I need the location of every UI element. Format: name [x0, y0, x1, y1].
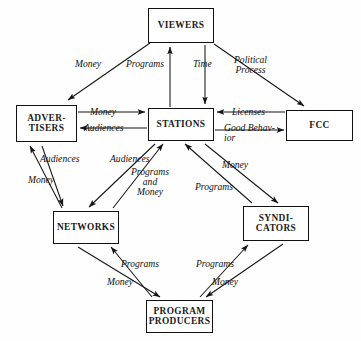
connector-lines-layer	[0, 0, 361, 341]
edge-label-programs-and-money: Programs and Money	[131, 167, 169, 196]
edge-networks-to-producers-money	[78, 247, 160, 297]
edge-label-programs-producers-networks: Programs	[121, 259, 159, 269]
node-program-producers-label-line1: PROGRAM	[149, 307, 211, 317]
node-fcc-label: FCC	[309, 121, 329, 131]
edge-label-licenses-fcc-stations: Licenses	[232, 107, 265, 117]
edge-producers-to-networks-programs	[111, 247, 152, 297]
edge-label-money-stations-syndicators: Money	[222, 160, 248, 170]
edge-label-programs-stations-viewers: Programs	[126, 59, 164, 69]
node-advertisers-label-line2: TISERS	[27, 124, 66, 134]
political-process-line2: Process	[236, 64, 266, 75]
edge-label-audiences-stations-networks: Audiences	[110, 154, 149, 164]
node-fcc[interactable]: FCC	[286, 110, 353, 141]
edge-label-good-behavior: Good Behav- ior	[224, 123, 275, 143]
programs-and-money-line3: Money	[137, 186, 163, 197]
node-program-producers[interactable]: PROGRAM PRODUCERS	[146, 300, 213, 333]
edge-viewers-to-advertisers-money	[68, 43, 150, 100]
node-advertisers-label-line1: ADVER-	[27, 114, 66, 124]
edge-label-money-networks-producers: Money	[107, 277, 133, 287]
edge-label-programs-syndicators-stations: Programs	[195, 182, 233, 192]
edge-label-audiences-stations-advertisers: Audiences	[84, 123, 123, 133]
node-networks-label: NETWORKS	[57, 223, 115, 233]
good-behavior-line2: ior	[224, 132, 235, 143]
node-advertisers[interactable]: ADVER- TISERS	[16, 105, 77, 142]
node-viewers[interactable]: VIEWERS	[148, 8, 214, 43]
diagram-canvas: VIEWERS ADVER- TISERS STATIONS FCC NETWO…	[0, 0, 361, 341]
edge-label-money-advertisers-networks: Money	[28, 175, 54, 185]
node-viewers-label: VIEWERS	[158, 21, 205, 31]
node-syndicators-label-line1: SYNDI-	[256, 214, 296, 224]
edge-label-money-syndicators-producers: Money	[212, 277, 238, 287]
edge-label-political-process: Political Process	[234, 55, 267, 75]
node-syndicators-label-line2: CATORS	[256, 224, 296, 234]
node-syndicators[interactable]: SYNDI- CATORS	[243, 206, 309, 241]
edge-producers-to-syndicators-programs	[200, 245, 248, 297]
edge-label-money-viewers-advertisers: Money	[75, 59, 101, 69]
node-networks[interactable]: NETWORKS	[53, 211, 119, 244]
node-stations[interactable]: STATIONS	[148, 108, 214, 141]
node-program-producers-label-line2: PRODUCERS	[149, 317, 211, 327]
edge-label-programs-producers-syndicators: Programs	[196, 259, 234, 269]
edge-label-money-advertisers-stations: Money	[90, 107, 116, 117]
edge-syndicators-to-producers-money	[206, 244, 283, 297]
edge-label-time-viewers-stations: Time	[193, 59, 212, 69]
edge-label-audiences-networks-advertisers: Audiences	[40, 154, 79, 164]
node-stations-label: STATIONS	[157, 120, 206, 130]
